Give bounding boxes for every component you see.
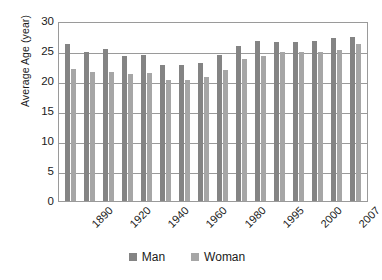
x-axis-tick-labels: 18901920194019601980199520002007: [58, 204, 368, 246]
bar-woman: [71, 69, 76, 201]
bar-group: [251, 23, 270, 201]
bar-group: [156, 23, 175, 201]
bar-man: [122, 56, 127, 201]
x-axis-tick-label: 2000: [318, 204, 344, 230]
legend-swatch-icon: [129, 253, 137, 261]
x-axis-tick-label: 1995: [280, 204, 306, 230]
x-axis-tick-label: 1940: [165, 204, 191, 230]
y-axis-tick-label: 10: [22, 136, 54, 148]
bar-woman: [280, 52, 285, 201]
bar-group: [194, 23, 213, 201]
legend-swatch-icon: [191, 253, 199, 261]
legend-label: Man: [142, 251, 165, 263]
bar-group: [80, 23, 99, 201]
bar-man: [84, 52, 89, 201]
bar-woman: [204, 77, 209, 201]
bar-man: [312, 41, 317, 201]
x-axis-tick-label: 1960: [203, 204, 229, 230]
bar-group: [61, 23, 80, 201]
bar-woman: [185, 80, 190, 201]
bar-woman: [90, 72, 95, 201]
y-axis-tick-label: 30: [22, 16, 54, 28]
bar-woman: [337, 50, 342, 201]
bar-group: [270, 23, 289, 201]
bar-group: [308, 23, 327, 201]
bar-man: [217, 55, 222, 201]
bar-group: [327, 23, 346, 201]
plot-area: [58, 22, 368, 202]
bar-group: [175, 23, 194, 201]
bars-layer: [59, 23, 367, 201]
bar-woman: [356, 44, 361, 201]
y-axis-tick-labels: 051015202530: [22, 22, 54, 202]
y-axis-tick-label: 5: [22, 166, 54, 178]
bar-man: [198, 63, 203, 201]
bar-woman: [109, 72, 114, 201]
bar-man: [274, 42, 279, 201]
bar-woman: [299, 52, 304, 201]
bar-man: [65, 44, 70, 201]
x-axis-tick-label: 1980: [242, 204, 268, 230]
bar-man: [293, 42, 298, 201]
bar-man: [236, 46, 241, 201]
y-axis-tick-label: 0: [22, 196, 54, 208]
bar-man: [255, 41, 260, 201]
legend-item: Woman: [191, 251, 245, 263]
bar-woman: [128, 74, 133, 201]
bar-group: [346, 23, 365, 201]
bar-woman: [223, 70, 228, 201]
bar-group: [99, 23, 118, 201]
x-axis-tick-label: 2007: [356, 204, 382, 230]
bar-man: [179, 65, 184, 201]
bar-man: [350, 37, 355, 201]
y-axis-tick-label: 20: [22, 76, 54, 88]
bar-group: [213, 23, 232, 201]
bar-group: [137, 23, 156, 201]
y-axis-tick-label: 25: [22, 46, 54, 58]
bar-woman: [147, 73, 152, 201]
chart-legend: ManWoman: [0, 251, 374, 263]
bar-group: [232, 23, 251, 201]
bar-woman: [261, 56, 266, 201]
bar-man: [141, 55, 146, 201]
x-axis-tick-label: 1890: [89, 204, 115, 230]
bar-man: [331, 38, 336, 201]
bar-man: [160, 65, 165, 201]
bar-woman: [318, 52, 323, 201]
bar-woman: [242, 59, 247, 201]
legend-item: Man: [129, 251, 165, 263]
bar-woman: [166, 80, 171, 201]
bar-man: [103, 49, 108, 201]
legend-label: Woman: [204, 251, 245, 263]
y-axis-tick-label: 15: [22, 106, 54, 118]
bar-group: [289, 23, 308, 201]
bar-group: [118, 23, 137, 201]
x-axis-tick-label: 1920: [127, 204, 153, 230]
